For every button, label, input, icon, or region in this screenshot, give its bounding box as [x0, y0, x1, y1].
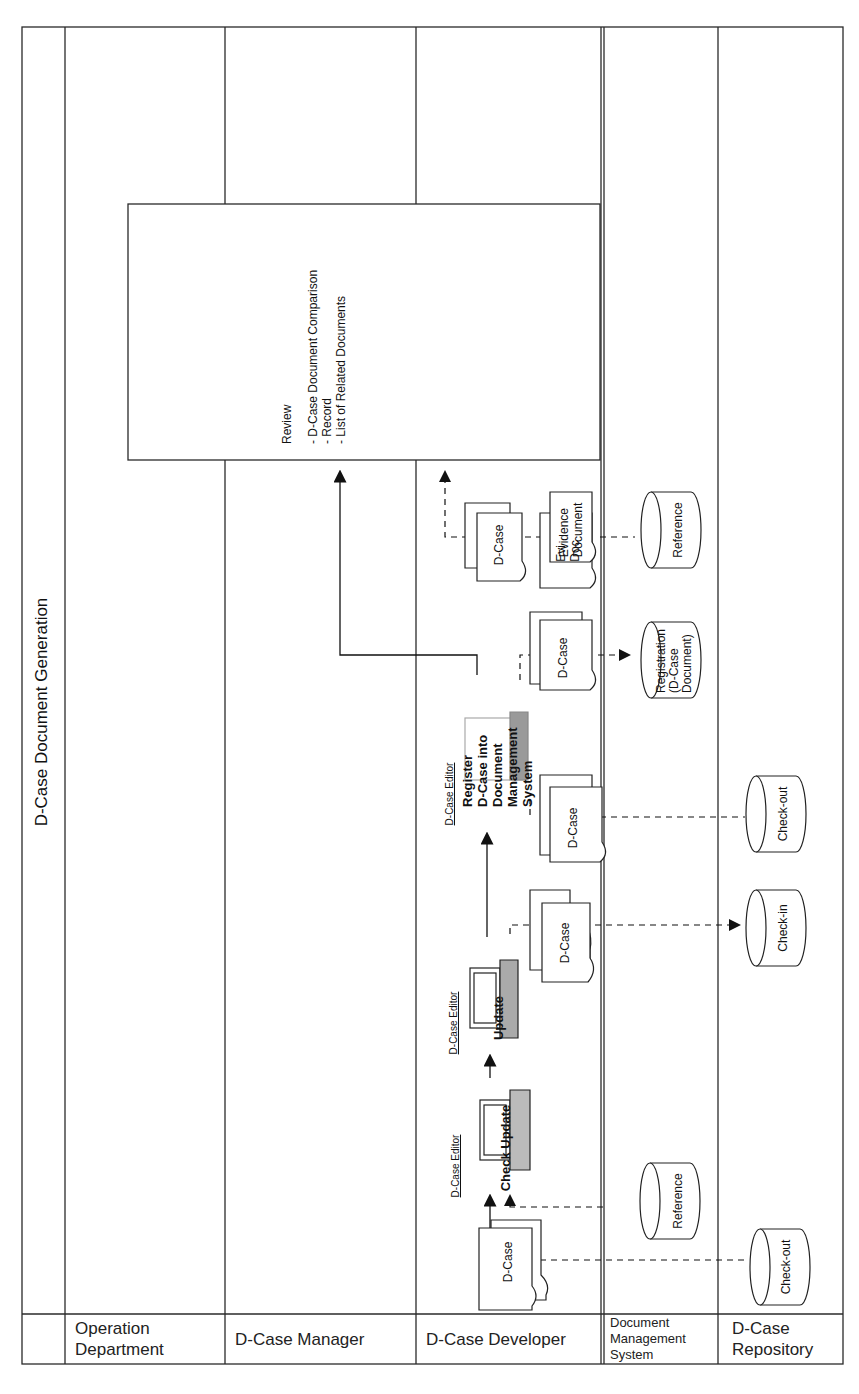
dcase-document-label: D-Case	[555, 628, 571, 688]
lane-header-dcase-developer: D-Case Developer	[416, 1314, 601, 1364]
swimlane-diagram: D-Case Document Generation Operation Dep…	[0, 0, 859, 1394]
review-box: Review - D-Case Document Comparison - Re…	[270, 220, 390, 460]
review-item: - Record	[320, 220, 334, 444]
lane-header-document-management-system: Document Management System	[604, 1314, 718, 1364]
checkin-store-label: Check-in	[775, 890, 791, 966]
diagram-lines	[0, 0, 859, 1394]
reference-store-label: Reference	[670, 492, 686, 568]
dcase-editor-label: D-Case Editor	[443, 749, 455, 839]
diagram-title: D-Case Document Generation	[31, 562, 53, 862]
dcase-document-label: D-Case	[557, 913, 573, 973]
review-title: Review	[280, 220, 294, 444]
evidence-document-label: Evidence Document	[556, 500, 586, 560]
dcase-document-label: D-Case	[500, 1232, 516, 1292]
dcase-editor-label: D-Case Editor	[447, 978, 459, 1068]
dcase-document-label: D-Case	[491, 515, 507, 575]
lane-header-dcase-repository: D-Case Repository	[718, 1314, 843, 1364]
review-item: - List of Related Documents	[334, 220, 348, 444]
checkout-store-label: Check-out	[775, 776, 791, 852]
lane-header-dcase-manager: D-Case Manager	[225, 1314, 416, 1364]
dcase-editor-label: D-Case Editor	[449, 1121, 461, 1211]
reference-store-label: Reference	[670, 1163, 686, 1239]
checkout-store-label: Check-out	[778, 1229, 794, 1305]
update-step: Update	[490, 988, 506, 1048]
lane-header-operation-department: Operation Department	[65, 1314, 225, 1364]
dcase-document-label: D-Case	[565, 798, 581, 858]
check-update-step: Check Update	[497, 1103, 513, 1193]
review-item: - D-Case Document Comparison	[306, 220, 320, 444]
registration-store-label: Registration (D-Case Document)	[653, 623, 695, 699]
register-step: Register D-Case into Document Management…	[458, 707, 536, 807]
